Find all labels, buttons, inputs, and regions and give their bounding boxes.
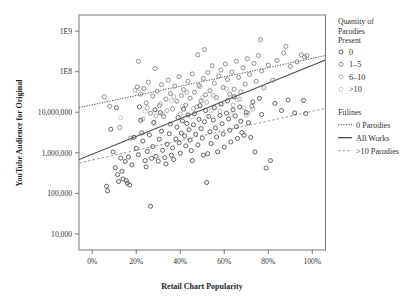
data-point xyxy=(168,91,172,95)
legend: Quantity ofParodiesPresent01–56–10>10Fit… xyxy=(338,17,399,156)
data-point xyxy=(185,121,189,125)
data-point xyxy=(207,114,211,118)
data-point xyxy=(198,84,202,88)
data-point xyxy=(231,103,235,107)
data-point xyxy=(208,89,212,93)
data-point xyxy=(239,119,243,123)
data-point xyxy=(191,123,195,127)
data-point xyxy=(159,83,163,87)
data-point xyxy=(151,94,155,98)
data-point xyxy=(249,135,253,139)
legend-marker-swatch[interactable] xyxy=(339,87,343,91)
plot-canvas: 0%20%40%60%80%100% 1E91E810,000,0001,000… xyxy=(0,0,414,299)
data-point xyxy=(136,59,140,63)
y-tick-label: 10,000 xyxy=(51,230,72,239)
data-point xyxy=(179,93,183,97)
data-point xyxy=(187,128,191,132)
data-point xyxy=(196,53,200,57)
data-point xyxy=(145,149,149,153)
data-point xyxy=(180,119,184,123)
data-point xyxy=(174,137,178,141)
data-point xyxy=(210,64,214,68)
y-tick-label: 1,000,000 xyxy=(42,149,73,158)
legend-marker-label[interactable]: 6–10 xyxy=(349,73,365,82)
data-point xyxy=(202,48,206,52)
data-point xyxy=(164,162,168,166)
data-point xyxy=(282,51,286,55)
data-point xyxy=(293,111,297,115)
data-point xyxy=(157,137,161,141)
data-point xyxy=(301,98,305,102)
data-point xyxy=(102,95,106,99)
data-point xyxy=(148,204,152,208)
data-point xyxy=(242,106,246,110)
data-point xyxy=(169,99,173,103)
data-point xyxy=(184,144,188,148)
data-point xyxy=(239,90,243,94)
data-point xyxy=(118,125,122,129)
data-point xyxy=(161,148,165,152)
x-axis-title: Retail Chart Popularity xyxy=(161,282,242,291)
data-point xyxy=(205,180,209,184)
data-point xyxy=(173,84,177,88)
data-point xyxy=(215,135,219,139)
data-point xyxy=(233,114,237,118)
data-point xyxy=(223,62,227,66)
data-point xyxy=(194,132,198,136)
data-point xyxy=(153,108,157,112)
data-point xyxy=(126,155,130,159)
legend-marker-label[interactable]: 1–5 xyxy=(349,60,361,69)
data-point xyxy=(226,77,230,81)
data-point xyxy=(196,143,200,147)
legend-marker-swatch[interactable] xyxy=(339,62,343,66)
data-point xyxy=(104,184,108,188)
data-point xyxy=(114,106,118,110)
data-point xyxy=(147,133,151,137)
data-point xyxy=(257,96,261,100)
data-point xyxy=(165,109,169,113)
data-point xyxy=(248,72,252,76)
data-point xyxy=(259,38,263,42)
data-point xyxy=(156,159,160,163)
legend-fitline-label[interactable]: 0 Parodies xyxy=(356,121,390,130)
data-point xyxy=(197,117,201,121)
data-point xyxy=(206,152,210,156)
data-point xyxy=(204,109,208,113)
data-point xyxy=(144,101,148,105)
data-point xyxy=(181,88,185,92)
data-point xyxy=(109,127,113,131)
data-point xyxy=(172,158,176,162)
data-point xyxy=(136,153,140,157)
y-axis-ticks: 1E91E810,000,0001,000,000100,00010,000 xyxy=(38,27,79,239)
y-axis-title: YouTube Audience for Original xyxy=(15,79,24,187)
data-point xyxy=(177,75,181,79)
data-point xyxy=(229,140,233,144)
x-tick-label: 20% xyxy=(129,257,144,266)
data-point xyxy=(148,111,152,115)
data-point xyxy=(211,118,215,122)
data-point xyxy=(251,100,255,104)
x-tick-label: 80% xyxy=(261,257,276,266)
data-point xyxy=(243,82,247,86)
data-point xyxy=(199,127,203,131)
data-point xyxy=(242,133,246,137)
data-point xyxy=(245,57,249,61)
data-point xyxy=(163,156,167,160)
data-point xyxy=(254,79,258,83)
legend-fitline-label[interactable]: All Works xyxy=(356,134,390,143)
x-axis-ticks: 0%20%40%60%80%100% xyxy=(87,250,322,266)
data-point xyxy=(178,151,182,155)
data-point xyxy=(252,61,256,65)
x-tick-label: 0% xyxy=(87,257,98,266)
legend-marker-label[interactable]: >10 xyxy=(349,85,362,94)
legend-marker-swatch[interactable] xyxy=(339,50,343,54)
data-point xyxy=(123,159,127,163)
legend-marker-label[interactable]: 0 xyxy=(349,48,353,57)
legend-fitline-label[interactable]: >10 Parodies xyxy=(356,147,399,156)
data-point xyxy=(229,112,233,116)
data-point xyxy=(220,122,224,126)
data-point xyxy=(221,132,225,136)
data-point xyxy=(212,106,216,110)
legend-marker-swatch[interactable] xyxy=(339,75,343,79)
y-tick-label: 1E9 xyxy=(60,27,72,36)
